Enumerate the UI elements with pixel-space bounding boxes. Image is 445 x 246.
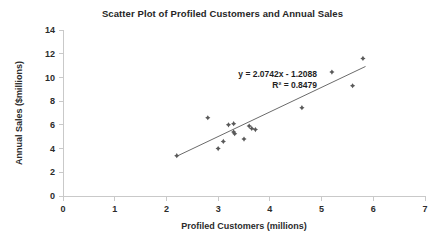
data-point-marker (360, 56, 365, 61)
axis-titles: Profiled Customers (millions)Annual Sale… (14, 61, 307, 231)
y-axis: 02468101214 (45, 25, 63, 201)
regression-annotation: y = 2.0742x - 1.2088R² = 0.8479 (238, 69, 317, 90)
y-tick-label: 4 (50, 144, 55, 154)
r-squared-value: R² = 0.8479 (272, 80, 317, 90)
x-tick-label: 7 (422, 204, 427, 214)
y-tick-label: 0 (50, 191, 55, 201)
y-tick-label: 14 (45, 25, 55, 35)
y-tick-label: 2 (50, 167, 55, 177)
y-tick-label: 12 (45, 49, 55, 59)
x-axis-title: Profiled Customers (millions) (181, 221, 307, 231)
x-tick-label: 4 (267, 204, 272, 214)
data-point-marker (299, 105, 304, 110)
x-tick-label: 5 (319, 204, 324, 214)
y-tick-label: 10 (45, 73, 55, 83)
data-point-marker (241, 136, 246, 141)
data-point-marker (221, 139, 226, 144)
data-point-marker (329, 69, 334, 74)
data-point-marker (350, 83, 355, 88)
trendline-segment (177, 66, 366, 156)
x-tick-label: 1 (112, 204, 117, 214)
x-tick-label: 3 (216, 204, 221, 214)
y-tick-label: 6 (50, 120, 55, 130)
scatter-chart: Scatter Plot of Profiled Customers and A… (0, 0, 445, 246)
x-tick-label: 0 (60, 204, 65, 214)
trendline (177, 66, 366, 156)
y-axis-title: Annual Sales ($millions) (14, 61, 24, 165)
data-point-marker (174, 153, 179, 158)
data-point-marker (231, 121, 236, 126)
y-tick-label: 8 (50, 96, 55, 106)
data-point-marker (253, 127, 258, 132)
data-point-marker (216, 146, 221, 151)
x-axis: 01234567 (60, 196, 427, 214)
plot-area: 02468101214 01234567 Profiled Customers … (0, 0, 445, 246)
regression-equation: y = 2.0742x - 1.2088 (238, 69, 317, 79)
data-point-marker (226, 122, 231, 127)
data-point-marker (205, 115, 210, 120)
x-tick-label: 2 (164, 204, 169, 214)
x-tick-label: 6 (371, 204, 376, 214)
